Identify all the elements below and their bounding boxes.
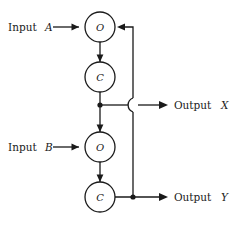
output-y-text: Output [174, 191, 212, 203]
node-o1[interactable]: O [85, 12, 115, 42]
node-o1-label: O [96, 22, 104, 33]
node-c1[interactable]: C [85, 62, 115, 92]
node-o2[interactable]: O [85, 132, 115, 162]
junction-dot-y [130, 194, 135, 199]
diagram-svg: O C O C Input A Input B Output X Outp [0, 0, 235, 225]
node-c1-label: C [96, 72, 104, 83]
edge-o1-c1 [97, 42, 104, 62]
node-o2-label: O [96, 142, 104, 153]
input-a-text: Input [8, 21, 37, 33]
feedback-wire [117, 24, 133, 197]
caption-remnant [0, 216, 235, 225]
output-x-variable: X [220, 99, 229, 111]
node-c2[interactable]: C [85, 182, 115, 212]
input-b-arrow [53, 144, 79, 151]
output-y-wire [115, 193, 168, 201]
node-c2-label: C [96, 192, 104, 203]
edge-o2-c2 [97, 162, 104, 182]
junction-dot-x [97, 102, 102, 107]
input-a-variable: A [44, 21, 53, 33]
input-b-text: Input [8, 141, 37, 153]
diagram-canvas: O C O C Input A Input B Output X Outp [0, 0, 235, 225]
output-x-wire [100, 101, 168, 109]
output-x-text: Output [174, 99, 212, 111]
input-b-label: Input B [8, 141, 53, 153]
edge-c1-o2 [97, 92, 104, 132]
output-y-label: Output Y [174, 191, 229, 203]
output-x-label: Output X [174, 99, 229, 111]
input-a-arrow [53, 24, 79, 31]
input-b-variable: B [44, 141, 53, 153]
output-y-variable: Y [221, 191, 229, 203]
input-a-label: Input A [8, 21, 53, 33]
